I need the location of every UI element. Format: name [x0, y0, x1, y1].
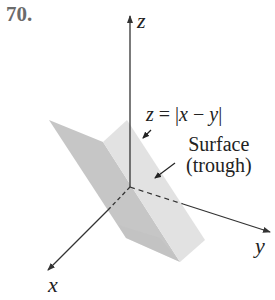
equation-pointer-arrow — [143, 130, 151, 138]
equation-x: x — [179, 103, 188, 125]
x-axis — [48, 210, 108, 270]
equation-y: y — [209, 103, 218, 125]
equation-minus: − — [188, 103, 209, 125]
y-axis-label: y — [255, 233, 265, 259]
trough-surface-figure: 70. z x y z = |x − y| Surface (trough) — [0, 0, 275, 300]
surface-label: Surface (trough) — [186, 134, 252, 176]
equation-label: z = |x − y| — [146, 103, 222, 126]
exercise-number: 70. — [6, 2, 32, 27]
equation-equals: = | — [154, 103, 179, 125]
x-axis-label: x — [48, 272, 58, 298]
equation-z: z — [146, 103, 154, 125]
surface-label-line1: Surface — [186, 134, 252, 155]
equation-close: | — [218, 103, 222, 125]
surface-label-line2: (trough) — [186, 155, 252, 176]
z-axis-label: z — [137, 8, 146, 34]
